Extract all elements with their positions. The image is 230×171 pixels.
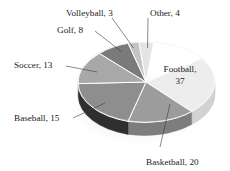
label-volleyball: Volleyball, 3	[66, 8, 113, 18]
label-football-line2: 37	[175, 76, 185, 86]
label-golf: Golf, 8	[57, 25, 83, 35]
label-football-line1: Football,	[164, 64, 197, 74]
pie-chart-figure: Volleyball, 3 Other, 4 Golf, 8 Soccer, 1…	[0, 0, 230, 171]
pie-chart-svg: Volleyball, 3 Other, 4 Golf, 8 Soccer, 1…	[0, 0, 230, 171]
label-baseball: Baseball, 15	[14, 113, 60, 123]
label-soccer: Soccer, 13	[14, 60, 53, 70]
label-basketball: Basketball, 20	[146, 157, 199, 167]
leader-line-volleyball	[112, 18, 134, 48]
label-other: Other, 4	[150, 8, 180, 18]
